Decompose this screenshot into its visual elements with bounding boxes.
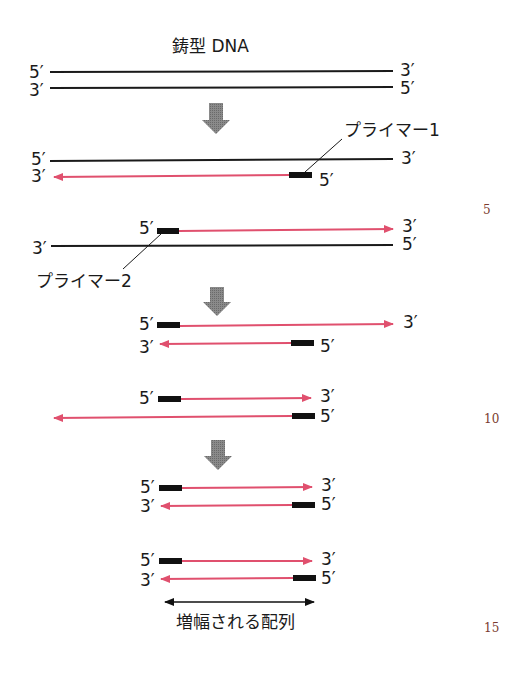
end-label: 5′	[319, 172, 334, 189]
end-label: 5′	[321, 496, 336, 513]
end-label: 5′	[139, 316, 154, 333]
end-label: 3′	[321, 551, 336, 568]
primer2-leader-line	[123, 234, 161, 269]
template-dna	[50, 71, 393, 88]
primer1-label: プライマー1	[344, 122, 440, 139]
pcr-diagram	[0, 0, 523, 675]
template-strand-bottom	[50, 87, 393, 88]
step-arrow-icon	[202, 103, 230, 134]
end-label: 5′	[400, 80, 415, 97]
end-label: 5′	[139, 390, 154, 407]
end-label: 3′	[403, 314, 418, 331]
end-label: 3′	[321, 477, 336, 494]
end-label: 5′	[321, 570, 336, 587]
line-number: 15	[484, 622, 499, 634]
end-label: 3′	[402, 218, 417, 235]
end-label: 3′	[29, 82, 44, 99]
end-label: 3′	[401, 150, 416, 167]
end-label: 5′	[139, 220, 154, 237]
end-label: 5′	[320, 408, 335, 425]
step-arrow-icon	[204, 440, 232, 470]
end-label: 5′	[140, 552, 155, 569]
primer1-step	[50, 139, 393, 178]
end-label: 3′	[320, 388, 335, 405]
template-strand-top	[50, 71, 393, 72]
end-label: 5′	[140, 479, 155, 496]
end-label: 3′	[31, 168, 46, 185]
end-label: 3′	[400, 62, 415, 79]
line-number: 10	[484, 413, 499, 425]
primer2-step	[51, 228, 393, 269]
end-label: 5′	[29, 64, 44, 81]
line-number: 5	[483, 204, 491, 216]
end-label: 3′	[140, 498, 155, 515]
step-arrow-icon	[203, 287, 231, 316]
template-dna-title: 鋳型 DNA	[172, 38, 249, 55]
primer2-block	[157, 228, 179, 234]
product2-step	[159, 558, 316, 581]
primer2-label: プライマー2	[36, 273, 132, 290]
primer1-leader-line	[305, 139, 342, 172]
end-label: 3′	[140, 572, 155, 589]
primer1-block	[289, 172, 312, 178]
end-label: 5′	[402, 236, 417, 253]
cycle2a-step	[157, 322, 393, 346]
amplified-sequence-label: 増幅される配列	[176, 614, 295, 631]
end-label: 5′	[320, 338, 335, 355]
cycle2b-step	[54, 396, 315, 419]
end-label: 3′	[139, 339, 154, 356]
end-label: 3′	[32, 240, 47, 257]
product1-step	[159, 485, 315, 508]
